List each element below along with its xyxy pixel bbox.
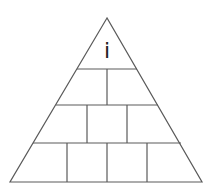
apex-label: i [104,38,110,63]
pyramid-diagram: i [0,0,213,195]
